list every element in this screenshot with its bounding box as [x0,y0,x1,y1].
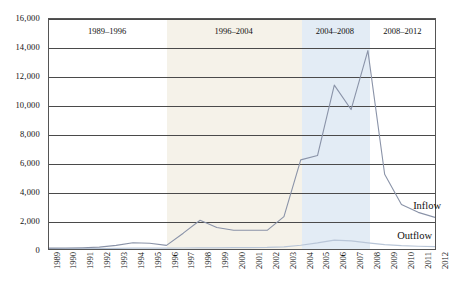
outflow-series-label: Outflow [397,230,432,241]
inflow-series-label: Inflow [413,200,441,211]
plot-area [48,18,436,250]
x-tick-label: 2006 [338,252,348,269]
y-tick-label: 4,000 [20,187,40,197]
x-tick-label: 2010 [406,252,416,269]
x-tick-label: 2004 [305,252,315,269]
y-tick-label: 12,000 [15,71,40,81]
x-tick-label: 2008 [372,252,382,269]
x-tick-label: 1998 [203,252,213,269]
x-tick-label: 1994 [136,252,146,269]
x-tick-label: 1992 [102,252,112,269]
x-tick-label: 1991 [85,252,95,269]
x-tick-label: 1993 [119,252,129,269]
x-tick-label: 2003 [288,252,298,269]
x-tick-label: 2001 [254,252,264,269]
x-tick-label: 2002 [271,252,281,269]
y-tick-label: 0 [36,245,40,255]
y-tick-label: 10,000 [15,100,40,110]
x-tick-label: 2000 [237,252,247,269]
period-label-2: 1996–2004 [214,26,252,36]
y-axis-labels: 02,0004,0006,0008,00010,00012,00014,0001… [0,18,44,250]
series-lines [49,19,435,249]
x-tick-label: 1995 [153,252,163,269]
period-label-3: 2004–2008 [316,26,354,36]
inflow-line [49,51,435,249]
x-tick-label: 2007 [355,252,365,269]
x-tick-label: 2012 [440,252,450,269]
period-label-4: 2008–2012 [383,26,421,36]
y-tick-label: 8,000 [20,129,40,139]
x-tick-label: 1997 [186,252,196,269]
x-tick-label: 2009 [389,252,399,269]
series-svg [49,19,435,249]
x-axis-labels: 1989199019911992199319941995199619971998… [48,252,436,284]
period-captions: 1989–19961996–20042004–20082008–2012 [48,18,436,44]
y-tick-label: 2,000 [20,216,40,226]
x-tick-label: 2005 [321,252,331,269]
outflow-line [49,240,435,249]
period-label-1: 1989–1996 [88,26,126,36]
x-tick-label: 2011 [423,252,433,269]
y-tick-label: 16,000 [15,13,40,23]
x-tick-label: 1999 [220,252,230,269]
y-tick-label: 14,000 [15,42,40,52]
y-tick-label: 6,000 [20,158,40,168]
x-tick-label: 1989 [52,252,62,269]
x-tick-label: 1990 [68,252,78,269]
x-tick-label: 1996 [170,252,180,269]
